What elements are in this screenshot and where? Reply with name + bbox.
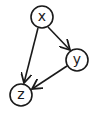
node-y: y [66, 49, 88, 71]
node-z-label: z [17, 86, 24, 102]
node-y-label: y [73, 51, 81, 67]
dag-diagram: x y z [0, 0, 101, 119]
node-z: z [10, 84, 32, 106]
edge-y-to-z [32, 66, 67, 89]
node-x: x [31, 6, 53, 28]
node-x-label: x [38, 8, 46, 24]
edge-x-to-z [24, 28, 38, 83]
edge-x-to-y [48, 27, 70, 50]
